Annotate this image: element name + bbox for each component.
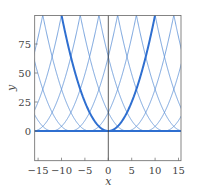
parabola-curve bbox=[32, 0, 51, 60]
parabola-chart: −15−10−5051015 0255075 x y bbox=[0, 0, 197, 193]
y-tick-label: 25 bbox=[18, 97, 31, 108]
x-tick-label: −15 bbox=[28, 165, 49, 176]
x-axis-label: x bbox=[105, 175, 112, 188]
x-tick-label: 5 bbox=[129, 165, 135, 176]
x-tick-label: 10 bbox=[149, 165, 162, 176]
x-tick-label: 0 bbox=[105, 165, 111, 176]
x-tick-label: −5 bbox=[78, 165, 93, 176]
x-tick-label: −10 bbox=[51, 165, 72, 176]
y-axis-label: y bbox=[5, 84, 18, 92]
y-tick-label: 50 bbox=[18, 68, 31, 79]
y-tick-label: 75 bbox=[18, 39, 31, 50]
y-tick-label: 0 bbox=[25, 126, 31, 137]
x-tick-label: 15 bbox=[172, 165, 185, 176]
